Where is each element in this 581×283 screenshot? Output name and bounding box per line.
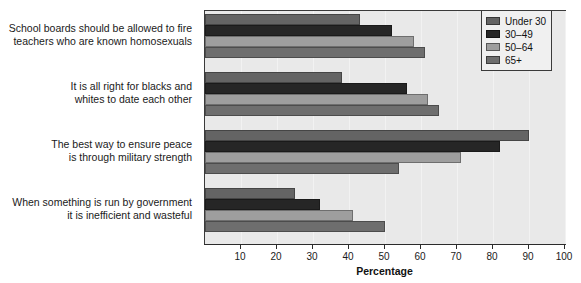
bar xyxy=(205,83,407,94)
x-axis-tick xyxy=(456,244,457,249)
x-axis-tick xyxy=(492,244,493,249)
category-label: School boards should be allowed to fire … xyxy=(0,22,192,48)
category-label: It is all right for blacks and whites to… xyxy=(0,80,192,106)
x-axis-tick-label: 80 xyxy=(477,251,507,262)
legend-label: 50–64 xyxy=(505,42,533,53)
legend-swatch-icon xyxy=(486,30,500,38)
x-axis-tick xyxy=(528,244,529,249)
x-axis-tick-label: 70 xyxy=(441,251,471,262)
x-axis-tick-label: 40 xyxy=(333,251,363,262)
bar xyxy=(205,188,295,199)
gridline xyxy=(565,11,566,244)
bar xyxy=(205,25,392,36)
bar xyxy=(205,221,385,232)
legend-swatch-icon xyxy=(486,56,500,64)
legend-swatch-icon xyxy=(486,17,500,25)
bar xyxy=(205,105,439,116)
gridline xyxy=(421,11,422,244)
x-axis-tick-label: 60 xyxy=(405,251,435,262)
bar xyxy=(205,14,360,25)
legend-item: 30–49 xyxy=(486,28,546,40)
legend-item: 50–64 xyxy=(486,41,546,53)
bar-chart: School boards should be allowed to fire … xyxy=(0,0,581,283)
legend-swatch-icon xyxy=(486,43,500,51)
category-label: When something is run by government it i… xyxy=(0,196,192,222)
bar xyxy=(205,36,414,47)
gridline xyxy=(457,11,458,244)
legend-label: 65+ xyxy=(505,55,522,66)
legend-label: 30–49 xyxy=(505,29,533,40)
bar xyxy=(205,163,399,174)
x-axis-tick xyxy=(348,244,349,249)
bar xyxy=(205,199,320,210)
legend: Under 3030–4950–6465+ xyxy=(481,10,552,71)
legend-item: 65+ xyxy=(486,54,546,66)
x-axis-title: Percentage xyxy=(204,265,565,277)
bar xyxy=(205,210,353,221)
x-axis-tick-label: 90 xyxy=(513,251,543,262)
legend-label: Under 30 xyxy=(505,16,546,27)
x-axis-tick xyxy=(312,244,313,249)
bar xyxy=(205,141,500,152)
x-axis-tick-label: 20 xyxy=(261,251,291,262)
bar xyxy=(205,47,425,58)
bar xyxy=(205,130,529,141)
x-axis-tick-label: 100 xyxy=(549,251,579,262)
x-axis-tick xyxy=(564,244,565,249)
x-axis-tick-label: 50 xyxy=(369,251,399,262)
category-axis-labels: School boards should be allowed to fire … xyxy=(0,0,198,243)
x-axis-tick-label: 10 xyxy=(225,251,255,262)
x-axis-tick xyxy=(420,244,421,249)
bar xyxy=(205,152,461,163)
x-axis-tick xyxy=(384,244,385,249)
legend-item: Under 30 xyxy=(486,15,546,27)
bar xyxy=(205,72,342,83)
x-axis-tick-label: 30 xyxy=(297,251,327,262)
x-axis-tick xyxy=(276,244,277,249)
bar xyxy=(205,94,428,105)
x-axis-tick xyxy=(240,244,241,249)
category-label: The best way to ensure peace is through … xyxy=(0,138,192,164)
